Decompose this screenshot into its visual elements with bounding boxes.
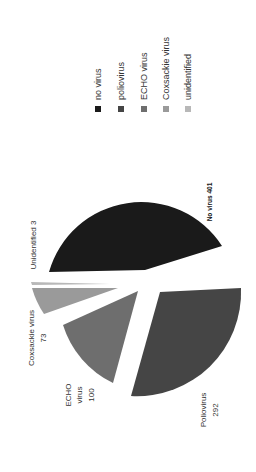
label-echo-l1: ECHO bbox=[64, 383, 73, 406]
label-unidentified: Unidentified 3 bbox=[29, 220, 38, 269]
pie-chart: No virus 401 Poliovirus 292 ECHO virus 1… bbox=[0, 0, 256, 472]
label-echo-l3: 100 bbox=[87, 388, 96, 402]
legend-swatch-coxsackie bbox=[163, 106, 169, 112]
legend-label-unidentified: unidentified bbox=[183, 54, 193, 100]
label-poliovirus-name: Poliovirus bbox=[199, 393, 208, 428]
slice-poliovirus bbox=[131, 288, 241, 396]
legend-label-no-virus: no virus bbox=[93, 68, 103, 100]
legend-item-no-virus: no virus bbox=[93, 68, 103, 112]
label-poliovirus-value: 292 bbox=[211, 403, 220, 417]
label-coxsackie-value: 73 bbox=[39, 333, 48, 342]
legend: no virus poliovirus ECHO virus Coxsackie… bbox=[93, 36, 193, 112]
legend-item-unidentified: unidentified bbox=[183, 54, 193, 112]
slice-no-virus bbox=[49, 202, 222, 272]
legend-item-poliovirus: poliovirus bbox=[116, 61, 126, 112]
legend-item-echo: ECHO virus bbox=[139, 52, 149, 112]
label-coxsackie-name: Coxsackie virus bbox=[27, 310, 36, 366]
legend-swatch-no-virus bbox=[95, 106, 101, 112]
legend-swatch-echo bbox=[141, 106, 147, 112]
label-no-virus: No virus 401 bbox=[206, 182, 213, 221]
legend-label-echo: ECHO virus bbox=[139, 52, 149, 100]
slice-echo bbox=[63, 291, 138, 383]
legend-swatch-unidentified bbox=[185, 106, 191, 112]
legend-label-poliovirus: poliovirus bbox=[116, 61, 126, 100]
label-echo-l2: virus bbox=[75, 387, 84, 404]
slice-unidentified bbox=[31, 282, 110, 285]
legend-swatch-poliovirus bbox=[118, 106, 124, 112]
legend-label-coxsackie: Coxsackie virus bbox=[161, 36, 171, 100]
legend-item-coxsackie: Coxsackie virus bbox=[161, 36, 171, 112]
